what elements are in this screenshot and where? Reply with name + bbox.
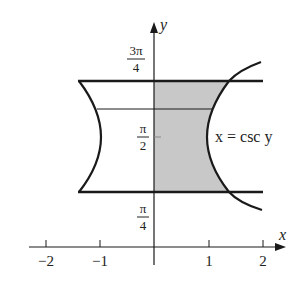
diagram-canvas: −2 −1 1 2 x y 3π 4 π 2 π 4 x = csc y (0, 0, 307, 281)
x-tick-label: 1 (205, 253, 213, 269)
x-tick-label: −1 (92, 253, 108, 269)
x-tick-label: −2 (38, 253, 54, 269)
mirror-curve (79, 81, 101, 192)
svg-text:π: π (140, 121, 147, 136)
solid-of-revolution-diagram: −2 −1 1 2 x y 3π 4 π 2 π 4 x = csc y (0, 0, 307, 281)
svg-text:3π: 3π (129, 43, 143, 58)
y-label-pi-4: π 4 (137, 201, 149, 233)
svg-text:4: 4 (133, 60, 140, 75)
y-axis-label: y (158, 16, 168, 34)
x-axis-arrow-icon (275, 243, 286, 251)
curve-label: x = csc y (215, 128, 272, 146)
x-tick-label: 2 (259, 253, 267, 269)
svg-text:2: 2 (140, 138, 147, 153)
y-label-pi-2: π 2 (137, 121, 149, 153)
y-label-3pi-4: 3π 4 (127, 43, 145, 75)
y-axis-arrow-icon (150, 22, 158, 33)
svg-text:4: 4 (140, 218, 147, 233)
svg-text:π: π (140, 201, 147, 216)
x-axis-label: x (278, 226, 286, 243)
